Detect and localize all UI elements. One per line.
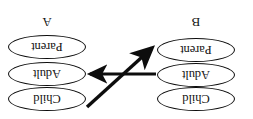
transactional-analysis-diagram: Child Adult Parent B Child Adult Parent … <box>0 0 253 119</box>
transaction-arrows <box>0 0 253 119</box>
figure-canvas: Child Adult Parent B Child Adult Parent … <box>0 0 253 119</box>
arrow-diagonal <box>87 48 152 107</box>
